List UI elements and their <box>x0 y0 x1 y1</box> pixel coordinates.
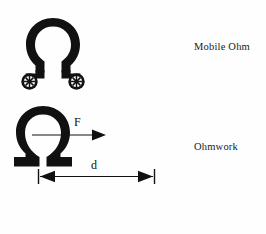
left-cart-wheel <box>21 73 37 89</box>
omega-symbol-plain <box>14 106 72 167</box>
distance-label: d <box>91 158 97 172</box>
figure-mobile-ohm <box>14 16 92 92</box>
mobile-ohm-drawing <box>14 16 92 92</box>
omega-glyph-path <box>26 18 80 73</box>
figure-ohmwork: F d <box>10 104 165 190</box>
right-wheel-hub <box>75 80 78 83</box>
omega-symbol-wheeled <box>26 18 81 79</box>
ohmwork-drawing: F d <box>10 104 165 190</box>
distance-arrow-head-left <box>40 171 55 182</box>
omega-glyph-path <box>14 106 72 167</box>
force-label: F <box>74 115 81 129</box>
right-cart-wheel <box>68 73 84 89</box>
figure-canvas: F d Mobile Ohm Ohmwork <box>0 0 266 234</box>
left-wheel-hub <box>28 80 31 83</box>
force-arrow-head <box>92 130 106 141</box>
distance-arrow-head-right <box>138 171 153 182</box>
caption-mobile-ohm: Mobile Ohm <box>194 41 250 52</box>
caption-ohmwork: Ohmwork <box>194 141 238 152</box>
